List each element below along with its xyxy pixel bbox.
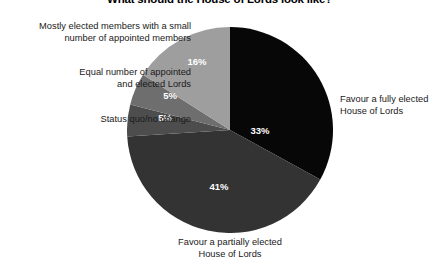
pie-label-equal-number: Equal number of appointed and elected Lo… [6, 67, 191, 90]
page-title: What should the House of Lords look like… [0, 0, 439, 5]
pie-chart-svg: 33% 41% 5% 5% 16% [127, 27, 333, 233]
pie-value-fully-elected: 33% [250, 125, 270, 136]
pie-value-mostly-elected: 16% [187, 56, 207, 67]
pie-label-fully-elected: Favour a fully elected House of Lords [340, 94, 436, 117]
pie-label-mostly-elected: Mostly elected members with a small numb… [6, 21, 191, 44]
pie-label-status-quo: Status quo/no change [6, 114, 191, 126]
pie-label-partially-elected: Favour a partially elected House of Lord… [125, 237, 335, 260]
pie-value-partially-elected: 41% [209, 181, 229, 192]
pie-chart: 33% 41% 5% 5% 16% [127, 27, 333, 233]
pie-value-equal-number: 5% [163, 90, 177, 101]
